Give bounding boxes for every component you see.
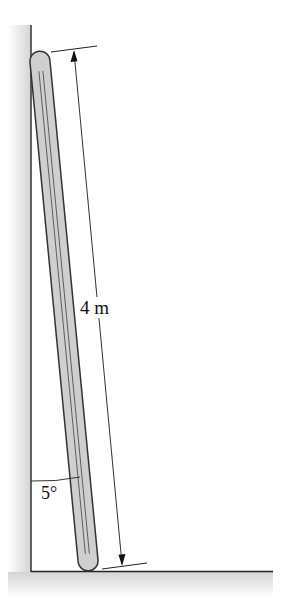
floor-hatch: [8, 572, 273, 597]
angle-label: 5°: [41, 484, 57, 502]
arrowhead-bottom-icon: [119, 554, 126, 566]
diagram-canvas: [0, 0, 293, 615]
length-label: 4 m: [80, 297, 109, 318]
arrowhead-top-icon: [71, 50, 78, 62]
wall-hatch: [8, 25, 31, 595]
dimension-tick-bottom: [102, 563, 147, 569]
